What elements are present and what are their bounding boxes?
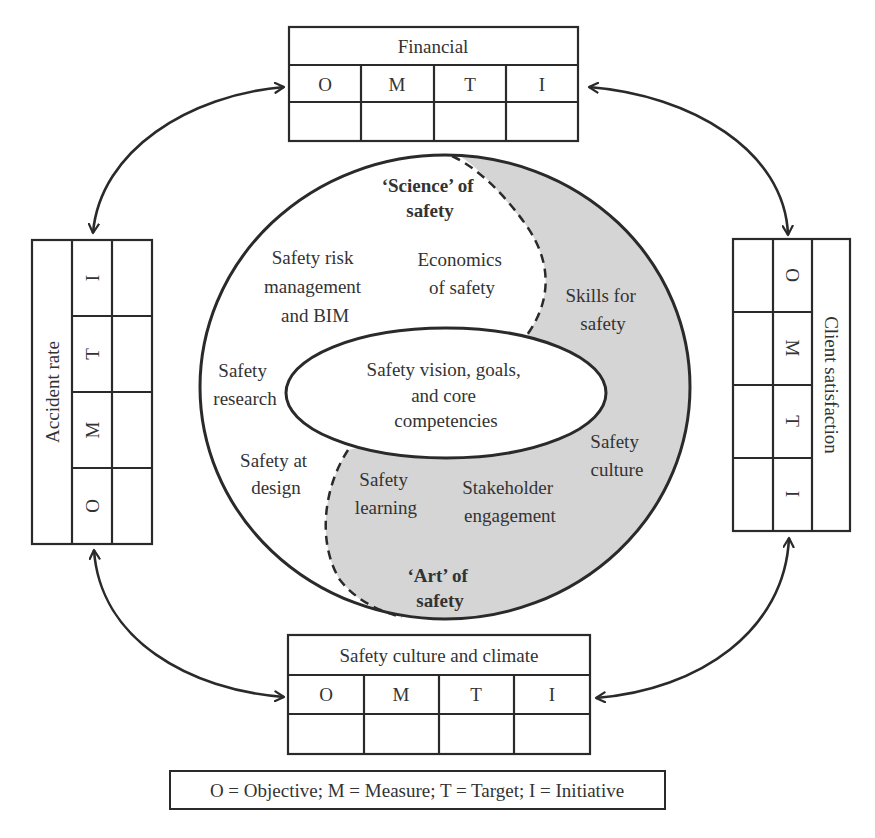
- culture-col-target: T: [470, 684, 482, 705]
- culture-col-measure: M: [393, 684, 410, 705]
- arrow-financial-client: [589, 87, 788, 235]
- accident-col-initiative: I: [82, 275, 103, 281]
- client-col-objective: O: [782, 268, 803, 282]
- financial-col-measure: M: [389, 74, 406, 95]
- financial-col-initiative: I: [539, 74, 545, 95]
- legend-box: O = Objective; M = Measure; T = Target; …: [170, 771, 665, 809]
- scorecard-financial-title: Financial: [398, 36, 469, 57]
- arrow-accident-culture: [94, 550, 284, 697]
- accident-col-objective: O: [82, 499, 103, 513]
- client-col-target: T: [782, 415, 803, 427]
- arrow-financial-accident: [93, 87, 284, 233]
- financial-col-objective: O: [318, 74, 332, 95]
- accident-col-measure: M: [82, 421, 103, 438]
- arrow-client-culture: [596, 538, 789, 698]
- client-col-initiative: I: [782, 491, 803, 497]
- scorecard-client-satisfaction-title: Client satisfaction: [821, 316, 842, 454]
- culture-col-objective: O: [319, 684, 333, 705]
- culture-col-initiative: I: [549, 684, 555, 705]
- accident-col-target: T: [82, 348, 103, 360]
- scorecard-accident-rate-title: Accident rate: [42, 341, 63, 443]
- client-col-measure: M: [782, 340, 803, 357]
- financial-col-target: T: [464, 74, 476, 95]
- legend-text: O = Objective; M = Measure; T = Target; …: [210, 780, 624, 801]
- balanced-scorecard-diagram: Safety vision, goals, and core competenc…: [0, 0, 875, 838]
- scorecard-safety-culture-title: Safety culture and climate: [340, 645, 539, 666]
